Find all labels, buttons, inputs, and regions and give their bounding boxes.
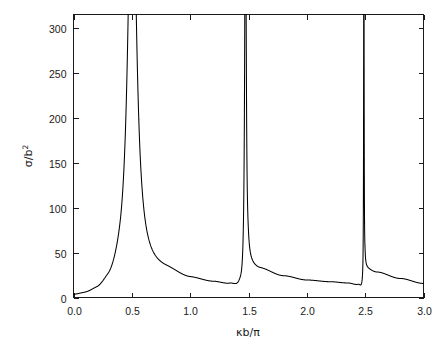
y-tick-label: 0	[61, 293, 67, 305]
y-tick-label: 250	[49, 68, 67, 80]
x-tick-label: 3.0	[417, 305, 432, 317]
resonance-cross-section-chart: 0.00.51.01.52.02.53.0 050100150200250300…	[0, 0, 446, 354]
y-tick-label: 150	[49, 158, 67, 170]
chart-background	[0, 0, 446, 354]
y-tick-label: 200	[49, 113, 67, 125]
x-tick-label: 1.0	[183, 305, 198, 317]
x-tick-label: 2.5	[358, 305, 373, 317]
x-axis-title: κb/π	[236, 326, 260, 339]
x-tick-label: 2.0	[300, 305, 315, 317]
x-tick-label: 0.5	[125, 305, 140, 317]
x-tick-label: 0.0	[67, 305, 82, 317]
y-tick-label: 100	[49, 203, 67, 215]
y-tick-label: 300	[49, 23, 67, 35]
y-tick-label: 50	[55, 248, 67, 260]
x-tick-label: 1.5	[242, 305, 257, 317]
